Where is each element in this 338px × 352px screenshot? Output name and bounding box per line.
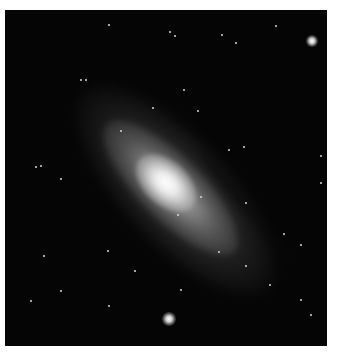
star bbox=[245, 265, 247, 267]
star bbox=[40, 165, 42, 167]
star bbox=[85, 79, 87, 81]
star bbox=[108, 24, 110, 26]
star bbox=[283, 233, 285, 235]
star bbox=[35, 166, 37, 168]
star bbox=[245, 202, 247, 204]
galaxy-photo bbox=[5, 10, 327, 346]
star bbox=[30, 300, 32, 302]
star bbox=[243, 146, 245, 148]
star bbox=[310, 314, 312, 316]
star bbox=[221, 34, 223, 36]
star bbox=[43, 255, 45, 257]
star bbox=[300, 244, 302, 246]
star bbox=[200, 196, 202, 198]
star bbox=[169, 31, 171, 33]
bright-star-top-right bbox=[306, 35, 318, 47]
star bbox=[108, 305, 110, 307]
star bbox=[275, 25, 277, 27]
star bbox=[183, 89, 185, 91]
star bbox=[80, 79, 82, 81]
star bbox=[320, 155, 322, 157]
star bbox=[180, 289, 182, 291]
star bbox=[218, 251, 220, 253]
star bbox=[177, 214, 179, 216]
star bbox=[269, 284, 271, 286]
star bbox=[320, 182, 322, 184]
star bbox=[60, 178, 62, 180]
bright-star-bottom bbox=[162, 312, 176, 326]
star bbox=[134, 270, 136, 272]
star bbox=[235, 42, 237, 44]
star bbox=[300, 299, 302, 301]
star bbox=[120, 130, 122, 132]
star bbox=[228, 149, 230, 151]
star bbox=[60, 290, 62, 292]
star bbox=[174, 35, 176, 37]
star bbox=[107, 250, 109, 252]
star bbox=[152, 107, 154, 109]
star bbox=[197, 110, 199, 112]
